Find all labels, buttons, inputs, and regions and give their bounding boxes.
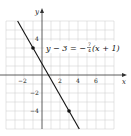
tick-y-4: 4 bbox=[35, 35, 39, 42]
tick-y-neg4: −4 bbox=[30, 107, 39, 114]
svg-text:y − 3 = −: y − 3 = − bbox=[45, 44, 86, 53]
tick-y-neg2: −2 bbox=[30, 89, 39, 96]
coordinate-plane: y x −2 2 4 6 4 −2 −4 y − 3 = − 7 4 (x + … bbox=[0, 0, 131, 136]
svg-text:(x + 1): (x + 1) bbox=[92, 44, 120, 53]
y-axis-label: y bbox=[34, 8, 40, 16]
x-axis-arrow-icon bbox=[122, 73, 127, 77]
y-axis-arrow-icon bbox=[40, 8, 44, 13]
tick-x-2: 2 bbox=[58, 77, 62, 84]
svg-text:4: 4 bbox=[88, 48, 91, 53]
point-3-neg4 bbox=[67, 109, 71, 113]
tick-x-neg2: −2 bbox=[18, 77, 27, 84]
svg-text:7: 7 bbox=[88, 42, 91, 47]
tick-x-4: 4 bbox=[76, 77, 80, 84]
tick-x-6: 6 bbox=[94, 77, 98, 84]
x-axis-label: x bbox=[122, 78, 126, 86]
equation-label: y − 3 = − 7 4 (x + 1) bbox=[45, 42, 120, 53]
point-neg1-3 bbox=[31, 46, 35, 50]
